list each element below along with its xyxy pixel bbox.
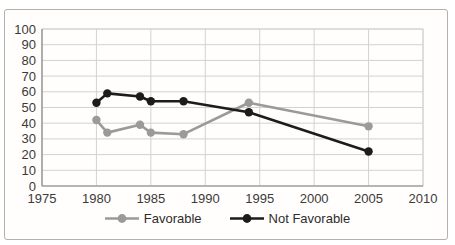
- legend-label-favorable: Favorable: [144, 212, 202, 225]
- x-tick-label: 1995: [245, 191, 274, 206]
- y-tick-label: 40: [22, 116, 36, 131]
- y-tick-label: 30: [22, 131, 36, 146]
- data-point-favorable: [179, 130, 187, 138]
- legend-label-not-favorable: Not Favorable: [269, 212, 351, 225]
- data-point-not-favorable: [364, 147, 372, 155]
- x-tick-label: 1990: [191, 191, 220, 206]
- y-tick-label: 60: [22, 84, 36, 99]
- data-point-favorable: [364, 122, 372, 130]
- y-tick-label: 90: [22, 37, 36, 52]
- legend: Favorable Not Favorable: [0, 212, 455, 225]
- y-tick-label: 50: [22, 100, 36, 115]
- data-point-favorable: [103, 128, 111, 136]
- plot-area: 0102030405060708090100197519801985199019…: [0, 0, 455, 245]
- data-point-favorable: [147, 128, 155, 136]
- data-point-not-favorable: [136, 92, 144, 100]
- data-point-not-favorable: [245, 108, 253, 116]
- x-tick-label: 1985: [136, 191, 165, 206]
- data-point-favorable: [92, 116, 100, 124]
- y-tick-label: 80: [22, 53, 36, 68]
- data-point-not-favorable: [92, 99, 100, 107]
- x-tick-label: 1980: [82, 191, 111, 206]
- data-point-not-favorable: [147, 97, 155, 105]
- legend-marker-not-favorable-icon: [230, 213, 264, 224]
- y-tick-label: 70: [22, 69, 36, 84]
- x-tick-label: 2000: [300, 191, 329, 206]
- y-tick-label: 100: [14, 22, 36, 37]
- legend-marker-favorable-icon: [105, 213, 139, 224]
- x-tick-label: 2010: [409, 191, 438, 206]
- data-point-favorable: [245, 99, 253, 107]
- data-point-not-favorable: [179, 97, 187, 105]
- legend-item-not-favorable: Not Favorable: [230, 212, 351, 225]
- y-tick-label: 20: [22, 147, 36, 162]
- legend-item-favorable: Favorable: [105, 212, 202, 225]
- chart-figure: 0102030405060708090100197519801985199019…: [0, 0, 455, 245]
- x-tick-label: 1975: [28, 191, 57, 206]
- x-tick-label: 2005: [354, 191, 383, 206]
- data-point-favorable: [136, 121, 144, 129]
- y-tick-label: 10: [22, 163, 36, 178]
- data-point-not-favorable: [103, 89, 111, 97]
